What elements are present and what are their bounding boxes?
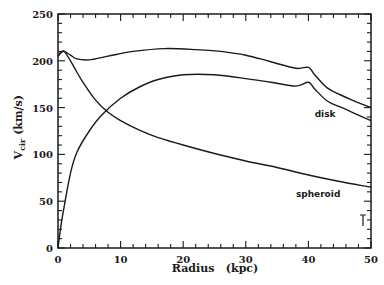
plot-frame <box>58 14 371 248</box>
y-axis-subscript: cir <box>17 138 27 151</box>
svg-text:Vcir (km/s): Vcir (km/s) <box>12 76 27 186</box>
annotation-spheroid: spheroid <box>296 189 340 199</box>
y-tick-label: 0 <box>46 243 53 254</box>
x-tick-label: 50 <box>364 254 378 265</box>
y-tick-label: 250 <box>32 9 53 20</box>
y-tick-label: 150 <box>32 103 53 114</box>
y-axis-symbol: V <box>12 150 25 160</box>
annotations: diskspheroid <box>296 109 340 199</box>
error-bar-marker <box>360 215 366 226</box>
curve-spheroid <box>58 51 371 187</box>
tick-labels: 01020304050050100150200250 <box>32 9 378 265</box>
y-tick-label: 100 <box>32 149 53 160</box>
rotation-curve-chart: 01020304050050100150200250 diskspheroid … <box>0 0 384 285</box>
x-tick-label: 0 <box>55 254 62 265</box>
y-tick-label: 50 <box>39 196 53 207</box>
y-axis-unit: (km/s) <box>12 95 25 135</box>
x-tick-label: 40 <box>301 254 315 265</box>
curves <box>58 49 371 248</box>
y-tick-label: 200 <box>32 56 53 67</box>
axis-ticks <box>58 14 371 248</box>
annotation-disk: disk <box>315 109 337 119</box>
y-axis-title: Vcir (km/s) <box>12 76 27 186</box>
curve-disk <box>58 74 371 248</box>
x-tick-label: 10 <box>114 254 128 265</box>
x-axis-title: Radius (kpc) <box>172 262 259 275</box>
